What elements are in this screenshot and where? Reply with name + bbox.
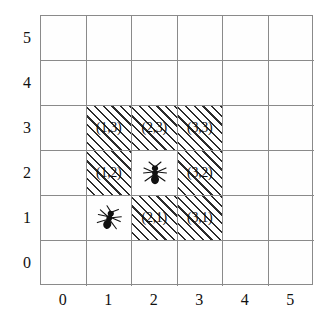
grid-cell-0-3 <box>41 106 87 151</box>
grid-cell-5-1 <box>269 196 315 241</box>
x-axis-tick-5: 5 <box>280 292 300 308</box>
grid-cell-5-4 <box>269 61 315 106</box>
x-axis-tick-3: 3 <box>189 292 209 308</box>
grid-cell-3-1: (3,1) <box>178 196 224 241</box>
grid-cell-0-2 <box>41 151 87 196</box>
grid-cell-2-4 <box>132 61 178 106</box>
grid-cell-1-3: (1,3) <box>87 106 133 151</box>
ant-grid-figure: (1,3)(2,3)(3,3)(1,2)(3,2)(2,1)(3,1) 0123… <box>0 0 329 323</box>
grid-cell-4-4 <box>223 61 269 106</box>
cell-label-3-2: (3,2) <box>178 151 223 195</box>
x-axis-tick-1: 1 <box>98 292 118 308</box>
grid-cell-1-5 <box>87 16 133 61</box>
grid-cell-2-2 <box>132 151 178 196</box>
cell-label-2-1: (2,1) <box>132 196 177 240</box>
y-axis-tick-0: 0 <box>17 255 37 271</box>
grid-cell-4-5 <box>223 16 269 61</box>
y-axis-tick-1: 1 <box>17 210 37 226</box>
grid-cell-3-0 <box>178 241 224 286</box>
grid-cell-1-1 <box>87 196 133 241</box>
y-axis-tick-5: 5 <box>17 30 37 46</box>
grid-cell-4-1 <box>223 196 269 241</box>
grid-cell-3-5 <box>178 16 224 61</box>
grid-cell-2-5 <box>132 16 178 61</box>
grid-cell-2-3: (2,3) <box>132 106 178 151</box>
cell-label-1-2: (1,2) <box>87 151 132 195</box>
grid-cell-2-1: (2,1) <box>132 196 178 241</box>
grid-cell-5-3 <box>269 106 315 151</box>
grid-cell-1-4 <box>87 61 133 106</box>
cell-label-3-1: (3,1) <box>178 196 223 240</box>
grid-cell-0-0 <box>41 241 87 286</box>
grid-cell-2-0 <box>132 241 178 286</box>
grid-cell-0-4 <box>41 61 87 106</box>
x-axis-tick-2: 2 <box>144 292 164 308</box>
grid-cell-5-0 <box>269 241 315 286</box>
y-axis-tick-4: 4 <box>17 75 37 91</box>
x-axis-tick-0: 0 <box>53 292 73 308</box>
grid-cell-5-5 <box>269 16 315 61</box>
cell-label-3-3: (3,3) <box>178 106 223 150</box>
cell-label-2-3: (2,3) <box>132 106 177 150</box>
grid-cell-4-3 <box>223 106 269 151</box>
y-axis-tick-2: 2 <box>17 165 37 181</box>
grid-cell-5-2 <box>269 151 315 196</box>
grid-cell-0-1 <box>41 196 87 241</box>
grid-cell-3-2: (3,2) <box>178 151 224 196</box>
x-axis-tick-4: 4 <box>235 292 255 308</box>
grid-cell-4-0 <box>223 241 269 286</box>
grid-cell-1-0 <box>87 241 133 286</box>
grid-cell-3-4 <box>178 61 224 106</box>
y-axis-tick-3: 3 <box>17 120 37 136</box>
grid-cell-4-2 <box>223 151 269 196</box>
grid-cell-3-3: (3,3) <box>178 106 224 151</box>
plot-grid: (1,3)(2,3)(3,3)(1,2)(3,2)(2,1)(3,1) <box>40 15 313 285</box>
cell-label-1-3: (1,3) <box>87 106 132 150</box>
grid-cell-1-2: (1,2) <box>87 151 133 196</box>
grid-cell-0-5 <box>41 16 87 61</box>
